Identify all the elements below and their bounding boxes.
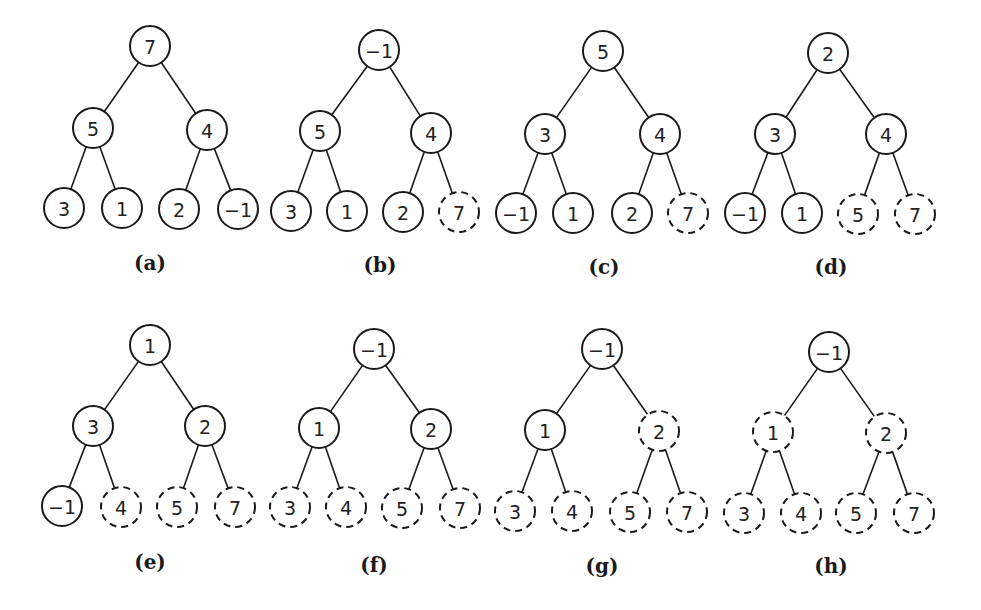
tree-panel: 234−1157(d) — [725, 33, 935, 279]
node-value: 1 — [567, 203, 579, 225]
tree-edge — [893, 153, 908, 195]
node-value: 7 — [144, 36, 156, 58]
sorted-node: 5 — [610, 492, 650, 532]
heap-node: 3 — [525, 114, 565, 154]
heap-node: 3 — [44, 188, 84, 228]
heap-node: 4 — [411, 113, 451, 153]
tree-panel: 754312−1(a) — [44, 26, 258, 275]
node-value: 3 — [738, 503, 750, 525]
sorted-node: 2 — [639, 411, 679, 451]
node-value: 3 — [769, 124, 781, 146]
heap-node: −1 — [725, 193, 765, 233]
tree-edge — [386, 365, 420, 412]
tree-edge — [781, 153, 795, 194]
node-value: 2 — [173, 199, 185, 221]
tree-edge — [212, 445, 228, 488]
panel-label: (f) — [360, 553, 388, 577]
node-value: −1 — [731, 203, 759, 225]
node-value: 5 — [314, 121, 326, 143]
tree-edge — [100, 147, 115, 189]
heap-node: 4 — [866, 114, 906, 154]
heap-node: 1 — [525, 410, 565, 450]
node-value: 2 — [822, 43, 834, 65]
node-value: 3 — [509, 501, 521, 523]
tree-edge — [841, 368, 875, 416]
sorted-node: 5 — [836, 493, 876, 533]
node-value: 1 — [313, 418, 325, 440]
tree-edge — [100, 445, 115, 488]
heap-node: −1 — [582, 329, 622, 369]
node-value: −1 — [48, 496, 76, 518]
heap-node: 1 — [102, 188, 142, 228]
tree-panel: −1123457(h) — [724, 332, 934, 578]
node-value: 5 — [597, 41, 609, 63]
tree-edge — [523, 153, 538, 194]
node-value: 7 — [454, 498, 466, 520]
node-value: 2 — [626, 203, 638, 225]
sorted-node: 7 — [895, 194, 935, 234]
tree-edge — [522, 449, 538, 492]
tree-edge — [893, 452, 908, 494]
sorted-node: 4 — [552, 491, 592, 531]
node-value: 7 — [453, 202, 465, 224]
heap-node: 1 — [553, 193, 593, 233]
tree-edge — [161, 362, 194, 410]
node-value: 1 — [341, 201, 353, 223]
node-value: 4 — [115, 497, 127, 519]
node-value: 3 — [539, 124, 551, 146]
heap-node: 2 — [383, 192, 423, 232]
tree-edge — [752, 153, 768, 195]
tree-edge — [298, 150, 313, 192]
node-value: 2 — [199, 416, 211, 438]
tree-edge — [637, 450, 653, 493]
sorted-node: 7 — [440, 488, 480, 528]
heap-node: 5 — [73, 108, 113, 148]
node-value: 3 — [87, 416, 99, 438]
heap-node: 2 — [159, 189, 199, 229]
panel-label: (a) — [134, 251, 166, 275]
tree-edge — [409, 448, 424, 489]
sorted-node: 4 — [781, 493, 821, 533]
node-value: 7 — [229, 497, 241, 519]
tree-edge — [614, 67, 648, 117]
node-value: 5 — [850, 503, 862, 525]
node-value: 7 — [682, 203, 694, 225]
tree-edge — [863, 452, 879, 495]
node-value: −1 — [365, 40, 393, 62]
tree-edge — [666, 450, 681, 493]
heap-node: 3 — [755, 114, 795, 154]
node-value: 7 — [908, 503, 920, 525]
heap-node: 1 — [130, 325, 170, 365]
node-value: 5 — [624, 502, 636, 524]
node-value: 3 — [284, 497, 296, 519]
tree-edge — [438, 152, 453, 193]
node-value: −1 — [502, 203, 530, 225]
sorted-node: 4 — [101, 487, 141, 527]
node-value: −1 — [224, 199, 252, 221]
sorted-node: 4 — [326, 487, 366, 527]
node-value: 5 — [171, 497, 183, 519]
tree-edge — [330, 365, 362, 411]
tree-edge — [551, 449, 565, 492]
sorted-node: 7 — [667, 492, 707, 532]
tree-edge — [326, 150, 340, 192]
tree-edge — [639, 153, 654, 194]
heap-node: 5 — [583, 31, 623, 71]
tree-edge — [325, 447, 339, 488]
node-value: 7 — [909, 204, 921, 226]
sorted-node: 3 — [270, 487, 310, 527]
sorted-node: 7 — [668, 193, 708, 233]
tree-edge — [784, 368, 817, 415]
heap-node: 2 — [411, 409, 451, 449]
tree-panel: −1123457(g) — [495, 329, 707, 578]
panel-label: (c) — [588, 255, 619, 279]
heap-node: 7 — [130, 26, 170, 66]
node-value: 4 — [340, 497, 352, 519]
node-value: 4 — [654, 124, 666, 146]
tree-edge — [410, 152, 425, 193]
panel-label: (d) — [815, 255, 848, 279]
heap-node: −1 — [354, 329, 394, 369]
heap-node: 1 — [299, 408, 339, 448]
heap-node: 4 — [640, 114, 680, 154]
tree-edge — [332, 66, 367, 115]
